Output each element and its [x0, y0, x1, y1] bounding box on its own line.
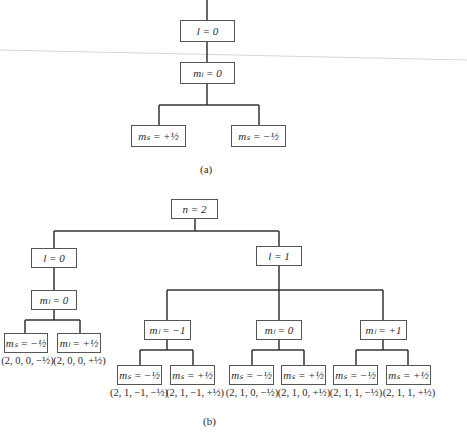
leaf-box: mₛ = +½	[386, 365, 431, 385]
leaf-box: mₛ = −½	[117, 365, 162, 385]
quantum-tuple: (2, 1, 0, −½)	[224, 387, 280, 398]
caption-b: (b)	[203, 415, 216, 427]
node-b-l0: l = 0	[31, 248, 77, 268]
quantum-tuple: (2, 0, 0, +½)	[52, 355, 107, 366]
leaf-box: mₛ = −½	[229, 365, 274, 385]
quantum-tuple: (2, 1, −1, −½)	[108, 387, 170, 398]
quantum-tuple: (2, 1, 1, −½)	[328, 387, 384, 398]
node-b-l1: l = 1	[256, 246, 302, 266]
node-b-l0-ml0: mₗ = 0	[31, 290, 77, 310]
caption-a: (a)	[200, 163, 212, 175]
leaf-box: mₛ = −½	[4, 333, 48, 353]
node-a-ms-minus: mₛ = −½	[231, 125, 286, 147]
node-b-ml-0: mₗ = 0	[256, 320, 302, 340]
leaf-box: mₛ = +½	[281, 365, 326, 385]
node-a-ms-plus: mₛ = +½	[131, 125, 186, 147]
node-a-ml0: mₗ = 0	[180, 62, 235, 84]
node-b-ml-minus1: mₗ = −1	[144, 320, 191, 340]
quantum-tuple: (2, 1, 0, +½)	[276, 387, 332, 398]
quantum-tuple: (2, 1, 1, +½)	[381, 387, 437, 398]
quantum-tuple: (2, 1, −1, +½)	[164, 387, 226, 398]
leaf-box: mₛ = +½	[170, 365, 215, 385]
leaf-box: mₗ = +½	[57, 333, 101, 353]
node-a-l0: l = 0	[180, 20, 235, 42]
leaf-box: mₛ = −½	[333, 365, 378, 385]
node-b-n2: n = 2	[171, 199, 218, 219]
node-b-ml-plus1: mₗ = +1	[360, 320, 407, 340]
quantum-tuple: (2, 0, 0, −½)	[0, 355, 55, 366]
